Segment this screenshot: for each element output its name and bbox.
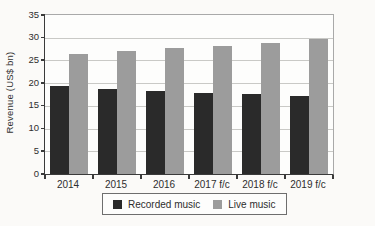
y-tick-mark-5 [41, 150, 45, 152]
bar-live-music-2017-f/c [213, 46, 232, 174]
bar-recorded-music-2019-f/c [290, 96, 309, 174]
legend-item-live-music: Live music [213, 199, 275, 210]
y-axis-title: Revenue (US$ bn) [4, 23, 15, 163]
y-tick-label-25: 25 [0, 54, 39, 65]
bar-live-music-2015 [117, 51, 136, 174]
bar-recorded-music-2016 [146, 91, 165, 174]
y-tick-label-35: 35 [0, 9, 39, 20]
y-tick-label-0: 0 [0, 168, 39, 179]
bar-recorded-music-2017-f/c [194, 93, 213, 174]
y-tick-label-10: 10 [0, 122, 39, 133]
x-tick-label-2019-f/c: 2019 f/c [278, 179, 338, 190]
bar-live-music-2019-f/c [309, 39, 328, 174]
legend-label: Recorded music [128, 199, 200, 210]
legend-swatch-icon [113, 200, 122, 209]
legend-label: Live music [228, 199, 275, 210]
y-tick-mark-35 [41, 14, 45, 16]
bar-chart: Revenue (US$ bn) Recorded musicLive musi… [0, 0, 375, 226]
bar-live-music-2018-f/c [261, 43, 280, 174]
plot-area [44, 14, 334, 175]
legend-item-recorded-music: Recorded music [113, 199, 200, 210]
y-tick-mark-10 [41, 128, 45, 130]
y-tick-label-20: 20 [0, 77, 39, 88]
legend-swatch-icon [213, 200, 222, 209]
bar-live-music-2014 [69, 54, 88, 174]
y-tick-mark-30 [41, 37, 45, 39]
legend: Recorded musicLive music [102, 193, 287, 215]
y-tick-mark-15 [41, 105, 45, 107]
y-tick-label-15: 15 [0, 99, 39, 110]
gridline-20 [45, 83, 333, 84]
bar-recorded-music-2014 [50, 86, 69, 174]
bar-recorded-music-2018-f/c [242, 94, 261, 174]
gridline-30 [45, 38, 333, 39]
y-tick-mark-25 [41, 59, 45, 61]
y-tick-label-5: 5 [0, 145, 39, 156]
y-tick-label-30: 30 [0, 31, 39, 42]
gridline-25 [45, 60, 333, 61]
y-tick-mark-20 [41, 82, 45, 84]
bar-recorded-music-2015 [98, 89, 117, 174]
bar-live-music-2016 [165, 48, 184, 174]
